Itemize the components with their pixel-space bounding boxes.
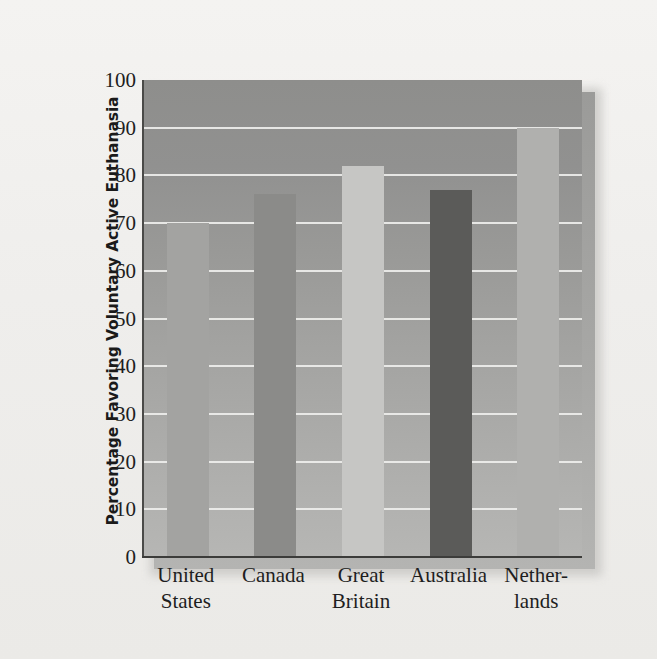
x-tick-label: Australia (405, 562, 493, 588)
y-axis-tick-labels: 0102030405060708090100 (88, 80, 136, 557)
chart-figure: Percentage Favoring Voluntary Active Eut… (0, 0, 657, 659)
x-tick-label-line: Britain (317, 588, 405, 614)
bar (517, 128, 559, 557)
bar (430, 190, 472, 557)
x-tick-label: Canada (230, 562, 318, 588)
x-tick-label-line: Nether- (492, 562, 580, 588)
x-tick-label: UnitedStates (142, 562, 230, 614)
x-tick-label-line: lands (492, 588, 580, 614)
plot-area (142, 80, 582, 557)
x-tick-label-line: United (142, 562, 230, 588)
x-axis-line (142, 556, 582, 558)
y-tick-label: 60 (88, 260, 136, 281)
x-tick-label-line: Great (317, 562, 405, 588)
y-tick-label: 10 (88, 499, 136, 520)
y-tick-label: 70 (88, 213, 136, 234)
bar (342, 166, 384, 557)
x-tick-label: GreatBritain (317, 562, 405, 614)
x-axis-tick-labels: UnitedStatesCanadaGreatBritainAustraliaN… (142, 562, 582, 632)
bars-group (144, 80, 582, 557)
x-tick-label: Nether-lands (492, 562, 580, 614)
x-tick-label-line: Australia (405, 562, 493, 588)
y-tick-label: 100 (88, 70, 136, 91)
x-tick-label-line: States (142, 588, 230, 614)
y-tick-label: 20 (88, 451, 136, 472)
bar (167, 223, 209, 557)
x-tick-label-line: Canada (230, 562, 318, 588)
bar (254, 194, 296, 557)
y-tick-label: 90 (88, 117, 136, 138)
y-tick-label: 80 (88, 165, 136, 186)
y-tick-label: 50 (88, 308, 136, 329)
y-tick-label: 0 (88, 547, 136, 568)
y-tick-label: 40 (88, 356, 136, 377)
y-tick-label: 30 (88, 403, 136, 424)
